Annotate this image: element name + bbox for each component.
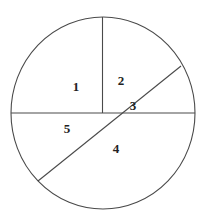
slice-label-5: 5: [64, 121, 71, 136]
slice-label-3: 3: [130, 98, 137, 113]
slice-label-4: 4: [113, 141, 120, 156]
slice-label-2: 2: [118, 73, 125, 88]
divider-diagonal: [38, 66, 181, 181]
slice-label-1: 1: [73, 79, 80, 94]
pie-chart: 1 2 3 4 5: [0, 0, 206, 218]
